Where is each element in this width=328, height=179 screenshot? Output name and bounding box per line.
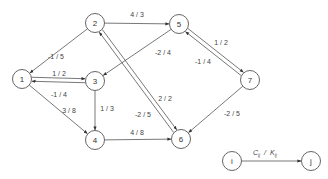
svg-text:j: j [309,157,312,166]
svg-text:4: 4 [93,136,98,145]
svg-text:1: 1 [20,75,25,84]
edge-label-3-to-1: -1 / 4 [51,91,67,98]
edge-label-5-to-7: 1 / 2 [214,39,228,46]
edge-6-to-2 [99,32,173,132]
svg-text:i: i [231,157,233,166]
edges-layer: -1 / 51 / 2-1 / 43 / 81 / 34 / 3-2 / 42 … [29,11,243,140]
edge-label-5-to-3: -2 / 4 [155,49,171,56]
svg-text:6: 6 [179,135,184,144]
edge-2-to-5 [104,23,169,24]
node-6: 6 [172,130,191,149]
edge-label-6-to-2: -2 / 5 [135,111,151,118]
legend-edge-label: Cij/Kij [253,149,278,158]
edge-2-to-1 [30,29,88,73]
edge-label-3-to-4: 1 / 3 [100,105,114,112]
edge-label-2-to-5: 4 / 3 [130,11,144,18]
edge-1-to-3 [32,77,86,78]
node-4: 4 [86,131,105,150]
edge-label-1-to-4: 3 / 8 [62,107,76,114]
node-2: 2 [86,14,105,33]
edge-4-to-6 [104,139,171,140]
legend-node-j: j [302,152,321,171]
svg-text:7: 7 [248,76,253,85]
svg-text:3: 3 [93,77,98,86]
edge-5-to-7 [188,28,244,72]
node-1: 1 [13,70,32,89]
node-3: 3 [86,72,105,91]
edge-label-1-to-3: 1 / 2 [52,70,66,77]
edge-label-2-to-1: -1 / 5 [48,53,64,60]
node-7: 7 [241,71,260,90]
legend: Cij/Kij i j [223,149,321,171]
edge-label-4-to-6: 4 / 8 [130,129,144,136]
edge-label-7-to-5: -1 / 4 [195,58,211,65]
edge-label-7-to-6: -2 / 5 [224,110,240,117]
legend-node-i: i [223,152,242,171]
svg-text:2: 2 [93,19,98,28]
svg-text:5: 5 [177,20,182,29]
edge-3-to-1 [32,81,86,82]
edge-label-2-to-6: 2 / 2 [158,95,172,102]
network-diagram: -1 / 51 / 2-1 / 43 / 81 / 34 / 3-2 / 42 … [0,0,328,179]
node-5: 5 [170,15,189,34]
